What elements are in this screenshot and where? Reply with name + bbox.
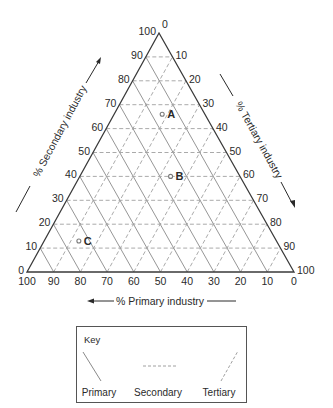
legend-tertiary-label: Tertiary bbox=[203, 387, 236, 398]
secondary-tick-label: 0 bbox=[18, 264, 24, 276]
tertiary-gridline bbox=[267, 248, 280, 272]
primary-gridline bbox=[93, 153, 161, 273]
tertiary-tick-label: 50 bbox=[230, 145, 242, 157]
tertiary-gridline bbox=[54, 57, 173, 272]
tertiary-axis-label: % Tertiary industry bbox=[220, 74, 295, 208]
legend-key: Key Primary Secondary Tertiary bbox=[77, 327, 247, 403]
primary-tick-label: 20 bbox=[235, 275, 247, 287]
secondary-tick-label: 30 bbox=[52, 192, 64, 204]
tertiary-axis-title: % Tertiary industry bbox=[233, 99, 286, 181]
tertiary-tick-label: 30 bbox=[203, 97, 215, 109]
primary-tick-label: 40 bbox=[181, 275, 193, 287]
secondary-tick-label: 70 bbox=[105, 97, 117, 109]
tertiary-tick-label: 0 bbox=[162, 18, 168, 30]
ternary-diagram: 1009080706050403020100 01020304050607080… bbox=[0, 0, 333, 408]
primary-tick-label: 100 bbox=[18, 275, 36, 287]
point-label: A bbox=[167, 108, 175, 120]
primary-tick-label: 80 bbox=[75, 275, 87, 287]
primary-gridline bbox=[146, 57, 267, 272]
tertiary-tick-labels: 0102030405060708090100 bbox=[162, 18, 315, 276]
secondary-tick-label: 90 bbox=[131, 49, 143, 61]
secondary-tick-label: 50 bbox=[78, 145, 90, 157]
primary-tick-label: 70 bbox=[101, 275, 113, 287]
tertiary-tick-label: 40 bbox=[216, 121, 228, 133]
tertiary-tick-label: 100 bbox=[297, 264, 315, 276]
legend-primary-label: Primary bbox=[82, 387, 116, 398]
secondary-tick-label: 40 bbox=[65, 168, 77, 180]
primary-tick-label: 50 bbox=[155, 275, 167, 287]
primary-tick-labels: 1009080706050403020100 bbox=[18, 275, 297, 287]
data-point-a: A bbox=[160, 108, 175, 120]
tertiary-tick-label: 90 bbox=[284, 240, 296, 252]
secondary-tick-label: 20 bbox=[39, 216, 51, 228]
point-marker-icon bbox=[160, 112, 164, 116]
primary-tick-label: 60 bbox=[128, 275, 140, 287]
point-label: C bbox=[84, 235, 92, 247]
point-marker-icon bbox=[77, 239, 81, 243]
arrow-left-icon bbox=[87, 299, 94, 304]
primary-gridline bbox=[119, 105, 213, 272]
tertiary-axis-line bbox=[220, 74, 233, 96]
secondary-axis-line bbox=[16, 186, 30, 212]
point-marker-icon bbox=[169, 174, 173, 178]
primary-tick-label: 10 bbox=[261, 275, 273, 287]
tertiary-gridline bbox=[107, 105, 199, 272]
secondary-tick-label: 80 bbox=[118, 73, 130, 85]
tertiary-tick-label: 10 bbox=[176, 49, 188, 61]
legend-title: Key bbox=[84, 334, 101, 345]
data-point-c: C bbox=[77, 235, 92, 247]
primary-tick-label: 90 bbox=[48, 275, 60, 287]
primary-tick-label: 0 bbox=[291, 275, 297, 287]
secondary-axis-arrow-line bbox=[86, 61, 99, 83]
primary-axis-label: % Primary industry bbox=[87, 295, 236, 307]
secondary-tick-label: 10 bbox=[26, 240, 38, 252]
point-label: B bbox=[176, 170, 184, 182]
arrow-up-icon bbox=[96, 57, 101, 64]
primary-gridline bbox=[40, 248, 54, 272]
secondary-tick-label: 60 bbox=[92, 121, 104, 133]
secondary-tick-label: 100 bbox=[138, 25, 156, 37]
tertiary-axis-arrow-line bbox=[281, 182, 292, 203]
tertiary-tick-label: 80 bbox=[270, 216, 282, 228]
arrow-down-icon bbox=[290, 200, 295, 208]
tertiary-tick-label: 70 bbox=[257, 192, 269, 204]
primary-tick-label: 30 bbox=[208, 275, 220, 287]
data-point-b: B bbox=[169, 170, 184, 182]
tertiary-tick-label: 20 bbox=[189, 73, 201, 85]
legend-secondary-label: Secondary bbox=[134, 387, 182, 398]
secondary-axis-title: % Secondary industry bbox=[30, 82, 89, 178]
tertiary-tick-label: 60 bbox=[243, 168, 255, 180]
primary-axis-title: % Primary industry bbox=[116, 295, 205, 307]
tertiary-gridline bbox=[161, 153, 227, 273]
secondary-axis-label: % Secondary industry bbox=[16, 57, 101, 212]
